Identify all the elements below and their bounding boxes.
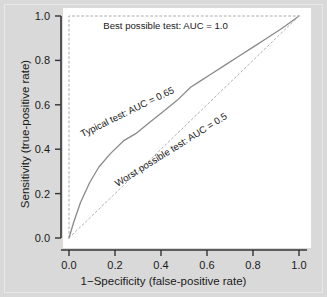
y-axis-title: Sensitivity (true-positive rate)	[19, 24, 31, 244]
x-tick-label-0: 0.0	[61, 259, 76, 271]
typical-test-label: Typical test: AUC = 0.65	[79, 84, 176, 139]
best-possible-label: Best possible test: AUC = 1.0	[103, 20, 228, 31]
y-tick-label-5: 1.0	[20, 10, 50, 22]
x-tick-label-3: 0.6	[199, 259, 214, 271]
x-tick-label-5: 1.0	[291, 259, 306, 271]
x-tick-label-2: 0.4	[153, 259, 168, 271]
x-tick-label-1: 0.2	[107, 259, 122, 271]
x-axis-title: 1−Specificity (false-positive rate)	[0, 275, 327, 287]
x-tick-label-4: 0.8	[245, 259, 260, 271]
worst-possible-label: Worst possible test: AUC = 0.5	[113, 110, 229, 188]
roc-curve-figure: Best possible test: AUC = 1.0Typical tes…	[0, 0, 327, 297]
